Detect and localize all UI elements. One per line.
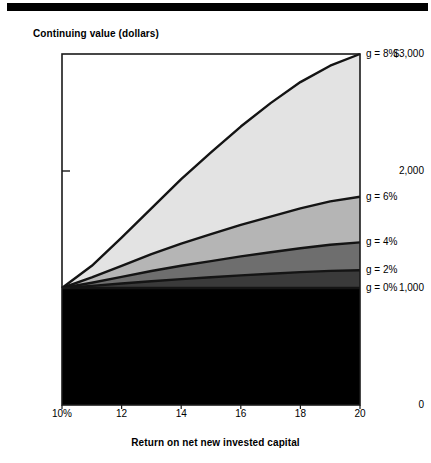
x-axis-title: Return on net new invested capital [0, 437, 431, 448]
series-label: g = 8% [366, 49, 397, 59]
x-tick-label: 12 [116, 409, 127, 419]
chart-figure: Continuing value (dollars) $3,0002,0001,… [0, 0, 431, 463]
x-tick-label: 16 [235, 409, 246, 419]
x-tick-label: 20 [354, 409, 365, 419]
series-label: g = 4% [366, 237, 397, 247]
plot-canvas [0, 0, 431, 463]
y-tick-label: 0 [369, 400, 431, 410]
x-tick-label: 10% [52, 409, 72, 419]
area-band [62, 288, 360, 405]
series-label: g = 0% [366, 283, 397, 293]
x-tick-label: 14 [176, 409, 187, 419]
y-tick-label: 2,000 [369, 166, 431, 176]
series-label: g = 6% [366, 192, 397, 202]
series-label: g = 2% [366, 265, 397, 275]
x-tick-label: 18 [295, 409, 306, 419]
